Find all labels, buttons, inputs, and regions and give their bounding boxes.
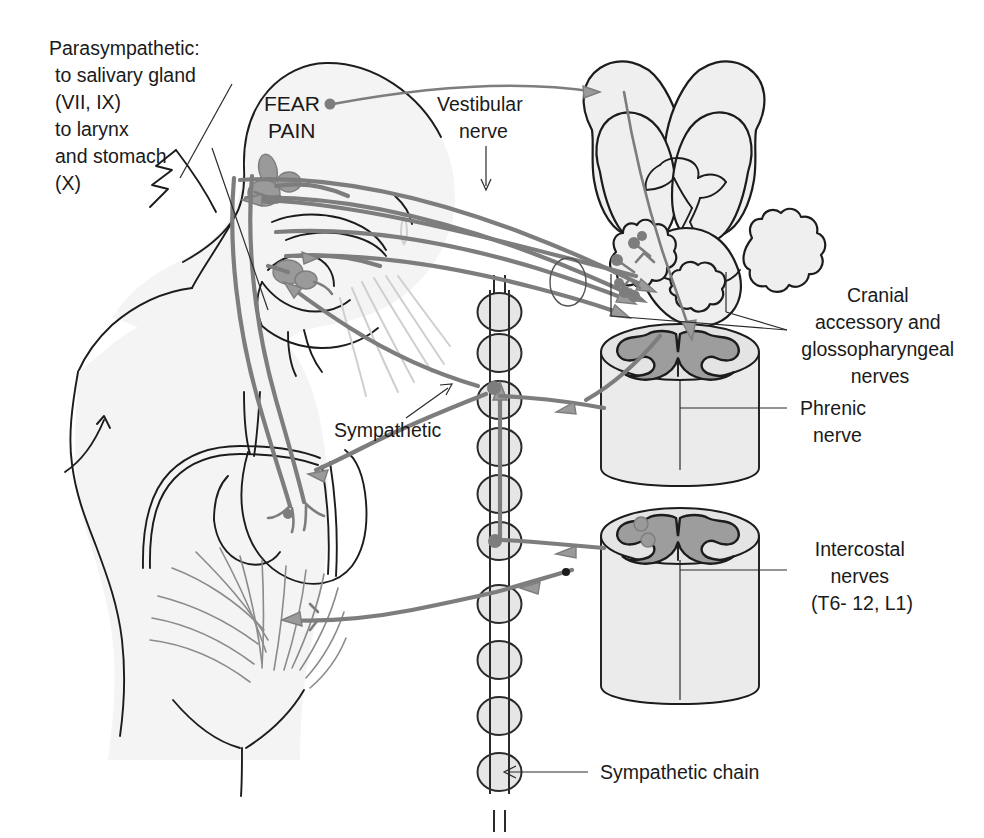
label-sympathetic: Sympathetic — [334, 419, 442, 441]
pubic-midline — [241, 748, 242, 796]
trachea-contour — [304, 330, 322, 372]
label-sympathetic-chain: Sympathetic chain — [600, 761, 759, 783]
label-phrenic-nerve: Phrenic nerve — [800, 397, 871, 446]
torso-outline — [75, 310, 328, 760]
label-vestibular-nerve: Vestibular nerve — [437, 93, 527, 142]
label-intercostal-nerves: Intercostal nerves (T6- 12, L1) — [811, 538, 913, 614]
label-cranial-accessory-nerves: Cranial accessory and glossopharyngeal n… — [801, 284, 958, 387]
sympathetic-chain — [478, 275, 522, 832]
shoulder-outline — [176, 150, 216, 212]
label-parasympathetic: Parasympathetic: to salivary gland (VII,… — [49, 37, 204, 194]
diaphragm-right-limb — [330, 462, 337, 576]
leader-parasympathetic-1 — [180, 84, 232, 178]
intercostal-nerve-arrow-1-icon — [556, 546, 576, 558]
anatomical-diagram: Parasympathetic: to salivary gland (VII,… — [0, 0, 984, 838]
